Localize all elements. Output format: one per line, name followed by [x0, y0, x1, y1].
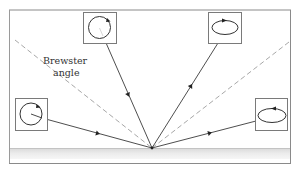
polarization-box-top-left: [84, 13, 117, 44]
arrow-icon: [207, 130, 212, 136]
brewster-label-line1: Brewster: [43, 55, 88, 66]
ray-grazing-reflected: [152, 121, 256, 148]
arrow-icon: [125, 92, 131, 98]
arrowheads: [95, 83, 212, 150]
polarization-box-left: [16, 99, 48, 131]
polarization-box-top-right: [209, 13, 242, 44]
brewster-dashed-line-right: [152, 42, 289, 148]
polarization-box-right: [256, 99, 288, 131]
incidence-point: [151, 147, 154, 150]
ray-steep-incident: [103, 36, 152, 148]
arrow-icon: [188, 83, 195, 89]
frame: [9, 10, 291, 164]
reflecting-surface: [9, 148, 291, 164]
brewster-label-line2: angle: [53, 67, 80, 78]
brewster-angle-diagram: Brewster angle: [0, 0, 301, 170]
